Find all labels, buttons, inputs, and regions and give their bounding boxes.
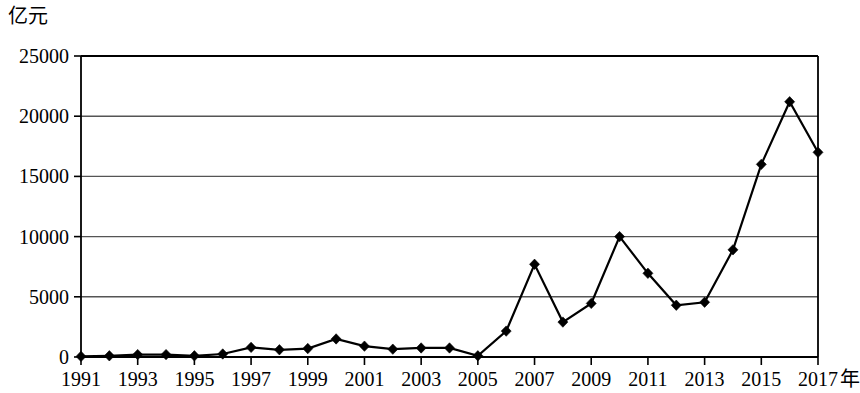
y-axis-tick-label: 10000	[19, 227, 69, 247]
data-point-marker	[445, 343, 455, 353]
x-axis-tick-label: 1999	[288, 369, 328, 389]
x-axis-unit-label: 年	[840, 369, 860, 389]
data-point-marker	[331, 334, 341, 344]
data-point-marker	[104, 351, 114, 361]
data-point-marker	[161, 349, 171, 359]
data-point-marker	[728, 245, 738, 255]
data-point-marker	[586, 298, 596, 308]
data-point-marker	[76, 351, 86, 361]
x-axis-tick-label: 2009	[571, 369, 611, 389]
data-point-marker	[274, 345, 284, 355]
data-point-marker	[558, 317, 568, 327]
data-point-marker	[416, 343, 426, 353]
data-point-marker	[359, 341, 369, 351]
x-axis-tick-label: 2013	[685, 369, 725, 389]
y-axis-tick-label: 15000	[19, 166, 69, 186]
data-point-marker	[246, 342, 256, 352]
x-axis-tick-label: 1997	[231, 369, 271, 389]
x-axis-tick-label: 2005	[458, 369, 498, 389]
data-point-marker	[700, 297, 710, 307]
data-point-marker	[756, 159, 766, 169]
data-point-marker	[785, 97, 795, 107]
x-axis-tick-label: 2011	[628, 369, 667, 389]
data-point-marker	[813, 147, 823, 157]
y-axis-tick-label: 0	[59, 347, 69, 367]
y-axis-tick-label: 20000	[19, 106, 69, 126]
data-series-line	[81, 102, 818, 357]
x-axis-tick-label: 2007	[515, 369, 555, 389]
x-axis-tick-label: 2003	[401, 369, 441, 389]
x-axis-tick-label: 1991	[61, 369, 101, 389]
x-axis-tick-label: 2015	[741, 369, 781, 389]
data-point-marker	[303, 343, 313, 353]
x-axis-tick-label: 1993	[118, 369, 158, 389]
data-point-marker	[530, 259, 540, 269]
data-point-marker	[189, 351, 199, 361]
data-point-marker	[388, 344, 398, 354]
data-point-marker	[133, 349, 143, 359]
x-axis-tick-label: 2017	[798, 369, 838, 389]
x-axis-tick-label: 1995	[174, 369, 214, 389]
x-axis-tick-label: 2001	[344, 369, 384, 389]
y-axis-tick-label: 5000	[29, 287, 69, 307]
y-axis-tick-label: 25000	[19, 46, 69, 66]
